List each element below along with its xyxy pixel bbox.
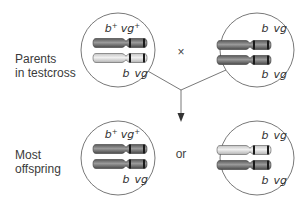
cross-symbol: × <box>177 45 184 59</box>
chromosome-dark <box>217 56 271 65</box>
or-text: or <box>176 147 187 161</box>
offspring-left-genotype: b+vg+ bvg <box>81 121 155 195</box>
offspring-right-genotype: bvg bvg <box>217 121 294 195</box>
down-arrow-icon <box>178 113 185 122</box>
parent-right-bottom-label: bvg <box>262 68 287 81</box>
chromosome-dark <box>93 160 147 169</box>
chromosome-light <box>93 54 147 63</box>
offspring-right-top-label: bvg <box>262 129 287 142</box>
offspring-right-bottom-label: bvg <box>262 174 287 187</box>
chromosome-dark <box>93 145 147 154</box>
parent-left-bottom-label: bvg <box>123 67 148 80</box>
parent-left-genotype: b+vg+ bvg <box>81 13 155 87</box>
cross-connector <box>146 70 226 115</box>
chromosome-dark <box>217 41 271 50</box>
chromosome-dark <box>217 161 271 170</box>
chromosome-light <box>217 146 271 155</box>
offspring-left-bottom-label: bvg <box>123 173 148 186</box>
parent-right-top-label: bvg <box>262 22 287 35</box>
parent-right-genotype: bvg bvg <box>217 13 294 87</box>
chromosome-dark <box>93 39 147 48</box>
testcross-diagram: × or b+vg+ bvg bvg bvg b+vg+ bvg bvg bvg <box>0 0 295 208</box>
